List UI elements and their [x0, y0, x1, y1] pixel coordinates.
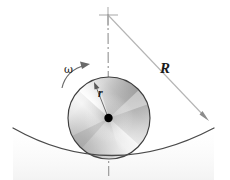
label-small-radius: r — [98, 87, 103, 99]
label-big-radius: R — [160, 61, 170, 76]
omega-arrowhead — [80, 62, 90, 70]
figure-canvas — [0, 0, 230, 180]
label-angular-velocity: ω — [64, 64, 73, 75]
physics-figure-disk-in-bowl: R r ω — [0, 0, 230, 180]
disk-center-dot — [104, 114, 112, 122]
